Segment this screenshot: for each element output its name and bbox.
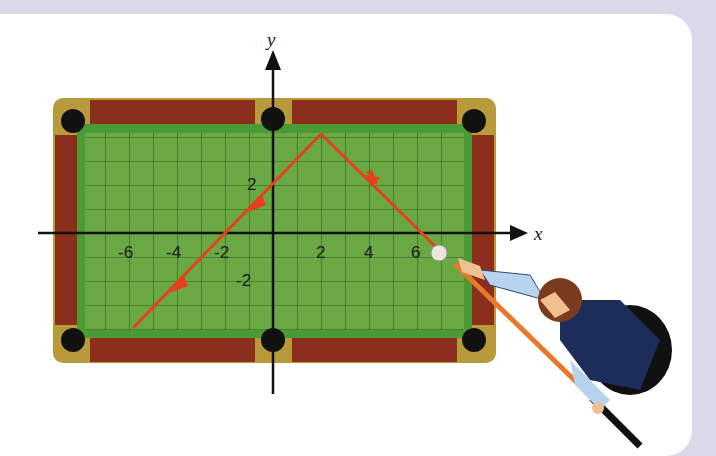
- pocket-icon: [61, 328, 85, 352]
- y-axis-label: y: [265, 29, 276, 50]
- pocket-icon: [462, 109, 486, 133]
- cue-ball-icon: [431, 245, 447, 261]
- x-tick: 4: [364, 243, 373, 262]
- pool-table: [53, 98, 496, 363]
- x-tick: -6: [118, 243, 133, 262]
- pool-table-diagram: x y -6 -4 -2 2 4 6 2 -2: [0, 0, 716, 456]
- pocket-icon: [61, 109, 85, 133]
- x-tick: -2: [214, 243, 229, 262]
- x-tick: 6: [411, 243, 420, 262]
- x-axis-label: x: [533, 223, 543, 244]
- y-tick: -2: [236, 271, 251, 290]
- x-tick: 2: [316, 243, 325, 262]
- pocket-icon: [462, 328, 486, 352]
- x-tick: -4: [166, 243, 181, 262]
- y-tick: 2: [247, 175, 256, 194]
